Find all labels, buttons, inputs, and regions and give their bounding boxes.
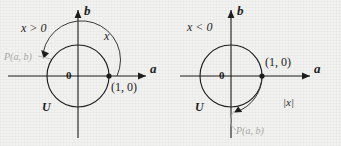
arc-label-right: |x|	[283, 97, 294, 108]
panel-x-positive: x > 0 a b 0 U (1, 0) x P(a, b)	[0, 0, 171, 146]
axis-x-label-right: a	[314, 62, 321, 75]
b-axis-left	[75, 10, 82, 138]
point-1-0-dot-right	[259, 73, 264, 78]
terminal-point-label-right: P(a, b)	[236, 126, 264, 136]
figure-root: x > 0 a b 0 U (1, 0) x P(a, b)	[0, 0, 341, 146]
condition-label-right: x < 0	[187, 21, 212, 33]
point-label-left: (1, 0)	[111, 81, 137, 93]
origin-label-right: 0	[219, 70, 225, 81]
arc-label-left: x	[104, 30, 109, 42]
arc-absx-right	[234, 76, 262, 113]
point-label-right: (1, 0)	[265, 56, 291, 68]
axis-y-label-left: b	[84, 4, 91, 17]
terminal-point-label-left: P(a, b)	[4, 52, 32, 62]
origin-label-left: 0	[66, 70, 72, 81]
a-axis-left	[8, 73, 146, 80]
circle-label-left: U	[42, 101, 51, 113]
circle-label-right: U	[195, 101, 204, 113]
axis-y-label-right: b	[237, 4, 244, 17]
panel-x-negative: x < 0 a b 0 U (1, 0) |x| P(a, b)	[170, 0, 341, 146]
axis-x-label-left: a	[150, 62, 157, 75]
point-1-0-dot-left	[106, 73, 111, 78]
condition-label-left: x > 0	[21, 22, 46, 34]
